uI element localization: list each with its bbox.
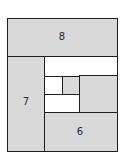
region-top-strip (44, 56, 118, 77)
region-6-label: 6 (77, 126, 83, 137)
region-8-label: 8 (59, 31, 65, 42)
region-small-white-left (44, 76, 63, 95)
region-small-gray (62, 76, 80, 95)
region-7-label: 7 (23, 96, 29, 107)
region-right-inner (79, 75, 118, 113)
region-small-white-bottom (44, 94, 80, 113)
